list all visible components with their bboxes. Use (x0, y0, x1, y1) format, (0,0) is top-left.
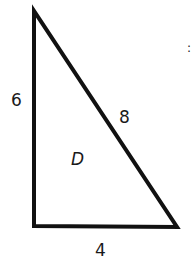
triangle-diagram: 6 8 D 4 : (0, 0, 193, 264)
side-label-hypotenuse: 8 (119, 107, 130, 127)
side-label-left: 6 (11, 90, 22, 110)
region-label: D (71, 149, 84, 169)
side-label-bottom: 4 (95, 240, 106, 260)
triangle-d (34, 11, 177, 227)
cut-off-edge-mark: : (187, 41, 191, 55)
